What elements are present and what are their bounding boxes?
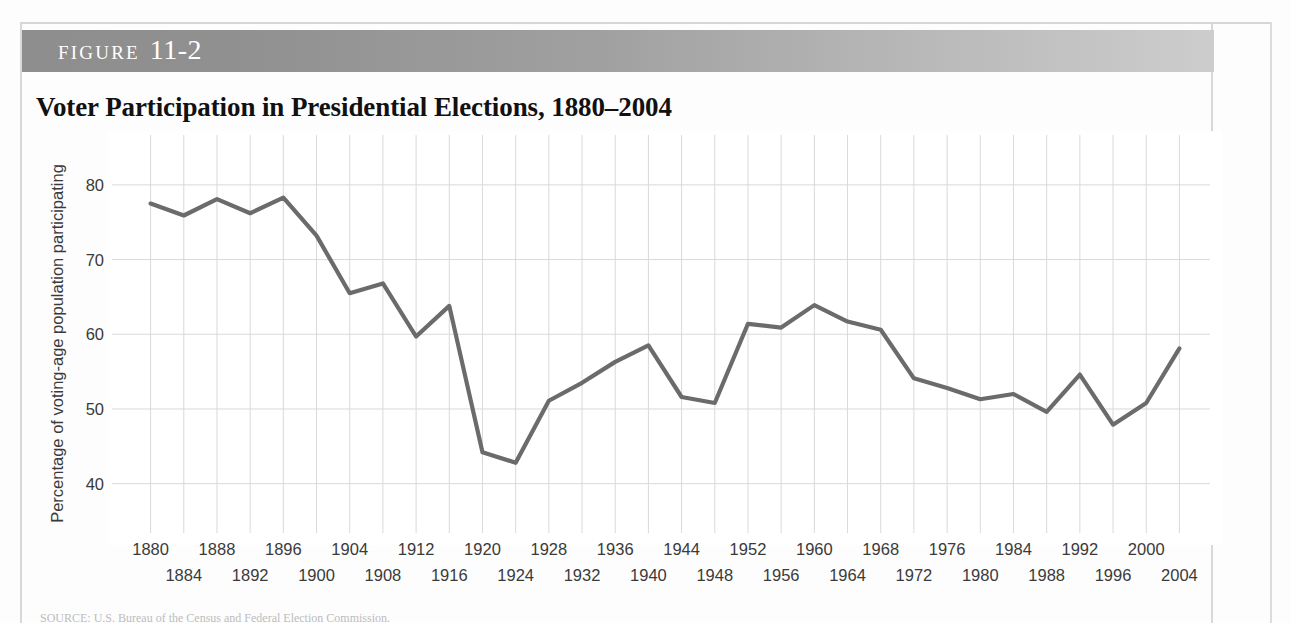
x-tick-label: 1992 [1050, 541, 1110, 558]
plot-background [108, 131, 1222, 545]
x-tick-label: 1900 [287, 567, 347, 584]
x-tick-label: 1924 [486, 567, 546, 584]
x-tick-label: 1956 [751, 567, 811, 584]
x-tick-label: 1888 [187, 541, 247, 558]
x-tick-label: 1884 [154, 567, 214, 584]
x-tick-label: 1904 [320, 541, 380, 558]
x-tick-label: 1948 [685, 567, 745, 584]
chart-canvas [0, 0, 1291, 623]
y-tick-label: 40 [64, 476, 104, 493]
x-tick-label: 1936 [585, 541, 645, 558]
y-tick-label: 50 [64, 401, 104, 418]
line-chart: Percentage of voting-age population part… [0, 0, 1291, 623]
x-tick-label: 1980 [950, 567, 1010, 584]
source-note: SOURCE: U.S. Bureau of the Census and Fe… [40, 611, 1180, 622]
y-tick-label: 70 [64, 252, 104, 269]
y-tick-label: 80 [64, 177, 104, 194]
y-tick-label: 60 [64, 326, 104, 343]
x-tick-label: 1912 [386, 541, 446, 558]
x-tick-label: 1964 [818, 567, 878, 584]
x-tick-label: 1932 [552, 567, 612, 584]
x-tick-label: 2004 [1149, 567, 1209, 584]
x-tick-label: 1916 [419, 567, 479, 584]
x-tick-label: 1960 [784, 541, 844, 558]
x-tick-label: 1972 [884, 567, 944, 584]
x-tick-label: 1920 [452, 541, 512, 558]
x-tick-label: 1968 [851, 541, 911, 558]
x-tick-label: 1988 [1017, 567, 1077, 584]
x-tick-label: 1880 [121, 541, 181, 558]
x-tick-label: 1940 [618, 567, 678, 584]
figure-page: Figure11-2 Voter Participation in Presid… [0, 0, 1291, 623]
x-tick-label: 1944 [652, 541, 712, 558]
y-axis-label: Percentage of voting-age population part… [48, 158, 67, 530]
x-tick-label: 2000 [1116, 541, 1176, 558]
x-tick-label: 1984 [983, 541, 1043, 558]
x-tick-label: 1952 [718, 541, 778, 558]
x-tick-label: 1996 [1083, 567, 1143, 584]
x-tick-label: 1908 [353, 567, 413, 584]
x-tick-label: 1928 [519, 541, 579, 558]
x-tick-label: 1896 [253, 541, 313, 558]
x-tick-label: 1976 [917, 541, 977, 558]
x-tick-label: 1892 [220, 567, 280, 584]
